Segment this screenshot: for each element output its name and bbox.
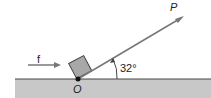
label-O: O [73, 83, 82, 95]
block [69, 56, 92, 79]
arrow-head-f-icon [54, 62, 61, 68]
arrow-head-P-icon [175, 16, 184, 23]
origin-point [76, 77, 81, 82]
diagram-canvas [0, 0, 211, 98]
label-P: P [170, 1, 177, 13]
label-angle: 32° [120, 62, 137, 74]
ground [15, 79, 211, 98]
label-f: f [37, 53, 40, 65]
